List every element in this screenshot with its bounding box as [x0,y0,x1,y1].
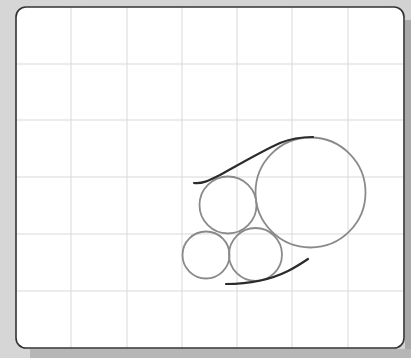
geometry-figure [0,0,411,358]
diagram-stage [0,0,411,358]
